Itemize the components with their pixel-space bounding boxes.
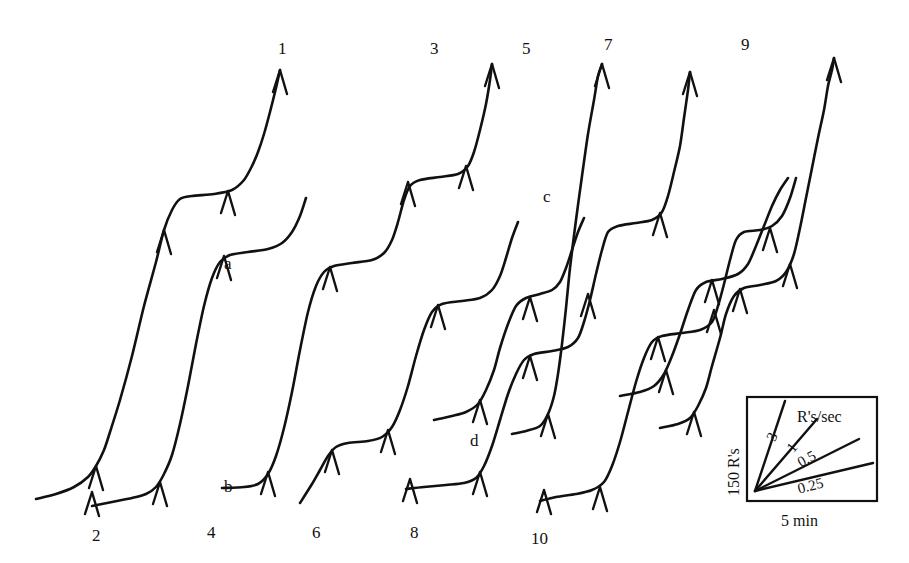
trace-5 [406, 72, 690, 489]
event-tick [325, 450, 339, 474]
event-tick [763, 228, 777, 252]
trace-endpoint-label-2: 2 [92, 527, 101, 544]
event-tick [659, 370, 673, 394]
event-tick [705, 280, 719, 304]
event-tick [221, 191, 235, 215]
trace-endpoint-label-3: 3 [430, 40, 439, 57]
annotation-label-c: c [543, 188, 551, 205]
legend-rate-header: R's/sec [797, 409, 842, 425]
event-tick [485, 64, 499, 88]
trace-endpoint-label-6: 6 [312, 524, 321, 541]
event-tick [653, 213, 667, 237]
trace-3 [222, 64, 492, 488]
event-tick [541, 414, 555, 438]
event-tick [523, 297, 537, 321]
trace-endpoint-label-4: 4 [207, 524, 216, 541]
cumulative-record-figure: 13579246810 abcd R's/sec 3 1 0.5 0.25 15… [0, 0, 909, 563]
event-tick [473, 400, 487, 424]
trace-endpoint-label-10: 10 [531, 530, 548, 547]
event-tick [537, 490, 551, 514]
event-tick [459, 166, 473, 190]
legend-horizontal-axis-label: 5 min [781, 513, 818, 529]
annotation-label-b: b [224, 478, 233, 495]
trace-10 [620, 178, 788, 396]
trace-7 [512, 64, 602, 434]
trace-endpoint-label-7: 7 [604, 36, 613, 53]
trace-endpoint-label-5: 5 [522, 40, 531, 57]
annotation-label-a: a [224, 255, 232, 272]
legend-vertical-axis-label: 150 R's [726, 448, 742, 496]
event-tick [261, 472, 275, 496]
trace-9 [660, 58, 834, 428]
trace-1 [36, 70, 280, 499]
event-tick [381, 430, 395, 454]
annotation-label-d: d [470, 432, 479, 449]
traces-group [36, 58, 834, 506]
trace-endpoint-label-1: 1 [278, 40, 287, 57]
event-tick [687, 412, 701, 436]
cumulative-record-plot [0, 0, 909, 563]
event-tick [473, 472, 487, 496]
event-tick [783, 264, 797, 288]
event-tick [89, 466, 103, 490]
event-tick [707, 310, 721, 334]
trace-endpoint-label-8: 8 [410, 524, 419, 541]
event-tick [153, 482, 167, 506]
trace-endpoint-label-9: 9 [741, 36, 750, 53]
event-tick [593, 487, 607, 511]
event-tick [403, 479, 417, 503]
